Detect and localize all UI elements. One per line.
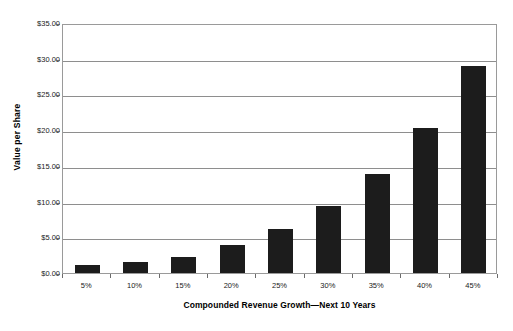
y-axis-tick-mark <box>56 24 60 25</box>
y-axis-tick-mark <box>56 60 60 61</box>
x-axis-tick-label: 15% <box>159 281 207 291</box>
bar <box>461 66 486 273</box>
x-axis-tick-label: 20% <box>207 281 255 291</box>
y-axis-title-label: Value per Share <box>12 104 22 171</box>
bar <box>268 229 293 273</box>
bars-group <box>63 25 496 273</box>
bar-chart: Value per Share $0.00$5.00$10.00$15.00$2… <box>0 0 513 331</box>
x-axis-title: Compounded Revenue Growth—Next 10 Years <box>62 300 497 310</box>
bar <box>123 262 148 273</box>
y-axis-tick-mark <box>56 203 60 204</box>
y-axis-tick-mark <box>56 167 60 168</box>
y-axis-tick-mark <box>56 274 60 275</box>
y-axis-tick-label: $0.00 <box>24 270 60 278</box>
y-axis-tick-label: $5.00 <box>24 234 60 242</box>
x-axis-tick-label: 10% <box>110 281 158 291</box>
bar <box>220 245 245 273</box>
y-axis-tick-label: $15.00 <box>24 163 60 171</box>
x-axis-tick-marks <box>62 274 497 279</box>
y-axis-tick-mark <box>56 95 60 96</box>
x-axis-tick-mark <box>449 274 450 278</box>
x-axis-tick-label: 30% <box>304 281 352 291</box>
x-axis-tick-mark <box>110 274 111 278</box>
bar <box>171 257 196 273</box>
plot-area <box>62 24 497 274</box>
y-axis-tick-label: $10.00 <box>24 199 60 207</box>
x-axis-tick-label: 25% <box>255 281 303 291</box>
x-axis-tick-mark <box>497 274 498 278</box>
bar <box>75 265 100 273</box>
x-axis-tick-label: 40% <box>400 281 448 291</box>
x-axis-tick-mark <box>62 274 63 278</box>
bar <box>413 128 438 273</box>
y-axis-tick-mark <box>56 131 60 132</box>
y-axis-tick-labels: $0.00$5.00$10.00$15.00$20.00$25.00$30.00… <box>24 24 60 274</box>
y-axis-tick-label: $20.00 <box>24 127 60 135</box>
x-axis-tick-label: 45% <box>449 281 497 291</box>
y-axis-tick-label: $25.00 <box>24 91 60 99</box>
y-axis-tick-label: $35.00 <box>24 20 60 28</box>
x-axis-tick-label: 35% <box>352 281 400 291</box>
x-axis-tick-mark <box>400 274 401 278</box>
x-axis-tick-mark <box>207 274 208 278</box>
x-axis-tick-label: 5% <box>62 281 110 291</box>
y-axis-tick-mark <box>56 238 60 239</box>
x-axis-tick-labels: 5%10%15%20%25%30%35%40%45% <box>62 281 497 295</box>
y-axis-tick-label: $30.00 <box>24 56 60 64</box>
x-axis-tick-mark <box>304 274 305 278</box>
bar <box>316 206 341 273</box>
x-axis-tick-mark <box>255 274 256 278</box>
x-axis-tick-mark <box>352 274 353 278</box>
bar <box>365 174 390 273</box>
x-axis-tick-mark <box>159 274 160 278</box>
